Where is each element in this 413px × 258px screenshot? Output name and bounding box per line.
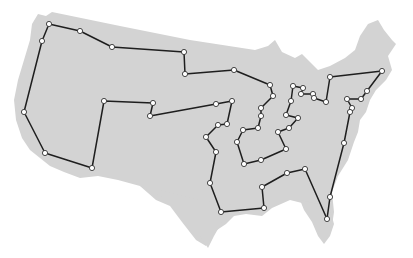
stop-marker (234, 139, 239, 144)
stop-marker (46, 21, 51, 26)
stop-marker (241, 161, 246, 166)
stop-marker (77, 28, 82, 33)
stop-marker (298, 91, 303, 96)
stop-marker (21, 109, 26, 114)
stop-marker (344, 96, 349, 101)
stop-marker (231, 67, 236, 72)
stop-marker (364, 88, 369, 93)
stop-marker (207, 180, 212, 185)
stop-marker (347, 109, 352, 114)
us-map-route (0, 0, 413, 258)
map-canvas (0, 0, 413, 258)
stop-marker (181, 49, 186, 54)
stop-marker (270, 93, 275, 98)
stop-marker (215, 122, 220, 127)
stop-marker (89, 165, 94, 170)
stop-marker (42, 150, 47, 155)
stop-marker (261, 205, 266, 210)
stop-marker (311, 95, 316, 100)
stop-marker (182, 71, 187, 76)
stop-marker (288, 98, 293, 103)
stop-marker (101, 98, 106, 103)
stop-marker (258, 113, 263, 118)
stop-marker (255, 125, 260, 130)
stop-marker (283, 112, 288, 117)
stop-marker (213, 149, 218, 154)
stop-marker (213, 101, 218, 106)
stop-marker (258, 105, 263, 110)
stop-marker (327, 194, 332, 199)
stop-marker (358, 96, 363, 101)
stop-marker (109, 44, 114, 49)
stop-marker (259, 184, 264, 189)
stop-marker (324, 216, 329, 221)
stop-marker (275, 129, 280, 134)
stop-marker (302, 166, 307, 171)
stop-marker (203, 134, 208, 139)
stop-marker (147, 113, 152, 118)
stop-marker (258, 157, 263, 162)
stop-marker (300, 85, 305, 90)
stop-marker (341, 140, 346, 145)
stop-marker (290, 83, 295, 88)
stop-marker (224, 121, 229, 126)
stop-marker (295, 115, 300, 120)
stop-marker (284, 170, 289, 175)
stop-marker (229, 98, 234, 103)
stop-marker (327, 74, 332, 79)
stop-marker (267, 82, 272, 87)
stop-marker (150, 100, 155, 105)
stop-marker (286, 125, 291, 130)
stop-marker (240, 127, 245, 132)
stop-marker (218, 209, 223, 214)
stop-marker (283, 146, 288, 151)
stop-marker (323, 99, 328, 104)
stop-marker (39, 38, 44, 43)
stop-marker (379, 68, 384, 73)
